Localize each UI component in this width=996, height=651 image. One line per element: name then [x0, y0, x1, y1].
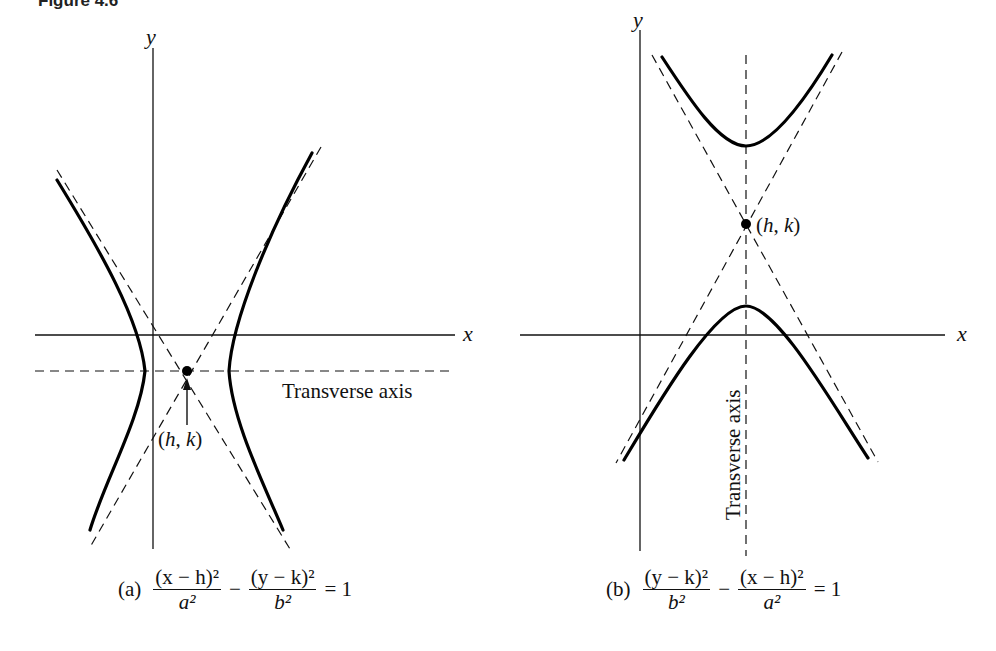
panel-a: y x (h, k) Transverse axis — [35, 24, 473, 549]
panel-b-equals: = 1 — [814, 577, 842, 602]
hyperbola-diagram: y x (h, k) Transverse axis y x — [0, 0, 996, 651]
panel-b-center-point — [741, 219, 751, 229]
panel-a-x-label: x — [462, 321, 473, 346]
panel-a-center-point — [182, 366, 192, 376]
panel-a-asymptote-1 — [57, 170, 290, 549]
panel-b-fraction-1: (y − k)² b² — [643, 566, 711, 613]
panel-b-caption: (b) (y − k)² b² − (x − h)² a² = 1 — [606, 566, 845, 613]
panel-b-frac1-numerator: (y − k)² — [643, 566, 711, 590]
panel-a-left-branch — [57, 180, 145, 530]
panel-a-frac1-denominator: a² — [179, 590, 196, 613]
panel-a-transverse-label: Transverse axis — [282, 379, 412, 403]
panel-b-x-label: x — [956, 321, 967, 346]
panel-a-y-label: y — [144, 24, 156, 49]
panel-b-center-label: (h, k) — [756, 213, 800, 237]
panel-b-minus: − — [718, 577, 730, 602]
panel-a-fraction-2: (y − k)² b² — [249, 566, 317, 613]
panel-b-caption-tag: (b) — [606, 577, 631, 602]
panel-b-frac2-denominator: a² — [763, 590, 780, 613]
panel-b: y x (h, k) Transverse axis — [520, 7, 967, 556]
panel-b-y-label: y — [631, 7, 643, 32]
panel-a-equals: = 1 — [324, 577, 352, 602]
panel-b-frac1-denominator: b² — [668, 590, 685, 613]
panel-a-caption-tag: (a) — [118, 577, 141, 602]
panel-b-transverse-label: Transverse axis — [721, 390, 745, 520]
panel-b-fraction-2: (x − h)² a² — [738, 566, 806, 613]
panel-a-right-branch — [229, 153, 312, 530]
panel-b-frac2-numerator: (x − h)² — [738, 566, 806, 590]
panel-a-center-label: (h, k) — [158, 427, 202, 451]
panel-a-fraction-1: (x − h)² a² — [153, 566, 221, 613]
panel-a-asymptote-2 — [89, 147, 321, 549]
panel-b-upper-branch — [662, 55, 832, 146]
panel-b-asymptote-1 — [652, 55, 878, 462]
panel-a-frac1-numerator: (x − h)² — [153, 566, 221, 590]
panel-a-minus: − — [229, 577, 241, 602]
panel-a-caption: (a) (x − h)² a² − (y − k)² b² = 1 — [118, 566, 356, 613]
panel-a-frac2-numerator: (y − k)² — [249, 566, 317, 590]
panel-a-frac2-denominator: b² — [274, 590, 291, 613]
